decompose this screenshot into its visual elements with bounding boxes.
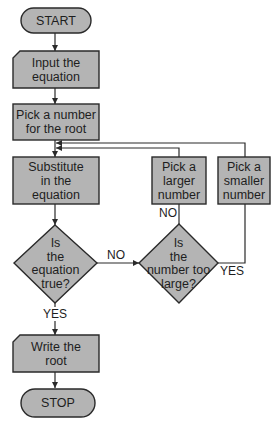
pick-smaller-label: Pick a smaller number (218, 157, 270, 204)
pick-number-label: Pick a number for the root (13, 104, 99, 140)
stop-label: STOP (21, 389, 95, 417)
write-root-label: Write the root (13, 335, 99, 372)
edge-label-too-large-yes: YES (220, 264, 244, 278)
input-equation-label: Input the equation (13, 51, 99, 88)
is-equation-true-label: Is the equation true? (14, 234, 97, 294)
start-label: START (21, 8, 91, 33)
edge-label-too-large-no: NO (159, 206, 177, 220)
edge-label-equation-yes: YES (43, 307, 67, 321)
pick-larger-label: Pick a larger number (152, 157, 206, 204)
edge-label-equation-no: NO (107, 248, 125, 262)
is-number-too-large-label: Is the number too large? (139, 234, 218, 294)
substitute-label: Substitute in the equation (13, 157, 99, 204)
